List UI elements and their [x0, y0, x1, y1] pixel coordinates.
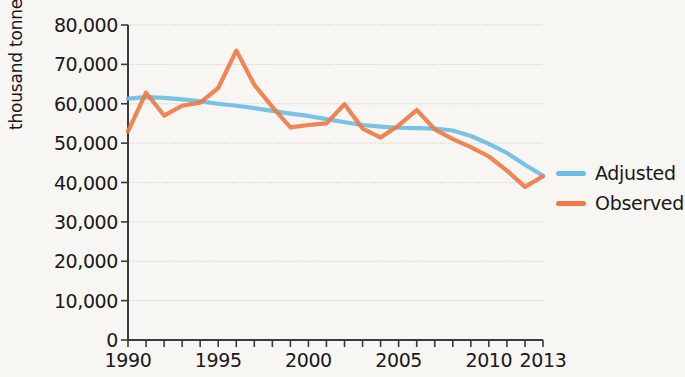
legend-item-observed: Observed: [556, 188, 685, 218]
legend: Adjusted Observed: [556, 158, 685, 218]
x-tick-label: 2000: [285, 349, 332, 371]
legend-swatch-observed: [556, 201, 586, 206]
x-tick-label: 2005: [375, 349, 422, 371]
x-tick-label: 2013: [520, 349, 567, 371]
legend-swatch-adjusted: [556, 171, 586, 176]
gridlines: [128, 25, 543, 301]
legend-label-adjusted: Adjusted: [595, 162, 676, 184]
x-tick-label: 2010: [465, 349, 512, 371]
y-axis-ticks: [121, 25, 128, 340]
data-series: [128, 51, 543, 187]
legend-item-adjusted: Adjusted: [556, 158, 685, 188]
axis-lines: [128, 25, 543, 340]
x-tick-label: 1995: [195, 349, 242, 371]
legend-label-observed: Observed: [595, 192, 684, 214]
x-tick-label: 1990: [105, 349, 152, 371]
line-chart: thousand tonnes 010,00020,00030,00040,00…: [0, 0, 685, 377]
x-axis-ticks: [128, 340, 543, 347]
